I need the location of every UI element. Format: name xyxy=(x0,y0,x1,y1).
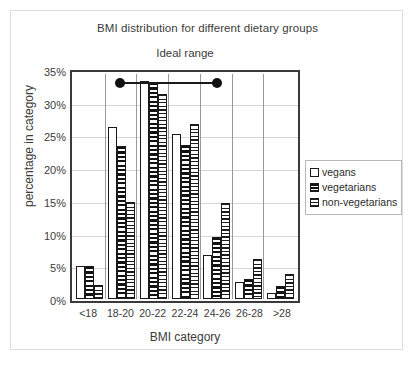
bar xyxy=(140,81,149,300)
x-axis-tick-label: 26-28 xyxy=(233,307,265,319)
y-axis-title: percentage in category xyxy=(22,46,36,246)
bar xyxy=(235,282,244,299)
bar xyxy=(126,202,135,300)
bar-group xyxy=(233,74,265,299)
bar-group xyxy=(201,74,233,299)
x-axis-tick-label: 24-26 xyxy=(201,307,233,319)
bar xyxy=(76,266,85,299)
x-axis-tick-label: <18 xyxy=(72,307,104,319)
legend-item-label: vegetarians xyxy=(322,180,376,195)
chart-title: BMI distribution for different dietary g… xyxy=(0,22,415,34)
chart-legend: vegansvegetariansnon-vegetarians xyxy=(305,160,402,215)
bar xyxy=(267,293,276,299)
legend-swatch-icon xyxy=(310,183,319,192)
x-axis-tick-label: 18-20 xyxy=(104,307,136,319)
bar xyxy=(85,266,94,299)
bar xyxy=(190,124,199,299)
legend-item: non-vegetarians xyxy=(310,195,397,210)
bar-group xyxy=(264,74,296,299)
bar xyxy=(158,94,167,299)
legend-swatch-icon xyxy=(310,198,319,207)
bar xyxy=(149,82,158,299)
ideal-range-annotation-label: Ideal range xyxy=(70,47,300,59)
chart-screenshot: BMI distribution for different dietary g… xyxy=(0,0,415,377)
y-axis-tick-label: 5% xyxy=(4,262,66,274)
bar xyxy=(221,203,230,299)
bar xyxy=(203,255,212,299)
legend-item-label: non-vegetarians xyxy=(322,195,397,210)
x-axis-tick-labels: <1818-2020-2222-2424-2626-28>28 xyxy=(72,307,298,319)
bar-group xyxy=(106,74,138,299)
x-axis-tick-label: 20-22 xyxy=(137,307,169,319)
bar xyxy=(285,274,294,299)
bar xyxy=(94,285,103,299)
plot-area xyxy=(70,70,300,303)
y-axis-tick-label: 0% xyxy=(4,295,66,307)
x-axis-tick-label: 22-24 xyxy=(169,307,201,319)
bar xyxy=(253,259,262,299)
bar xyxy=(172,134,181,299)
ideal-range-line xyxy=(120,82,217,84)
bar-group xyxy=(74,74,106,299)
legend-swatch-icon xyxy=(310,168,319,177)
x-axis-title: BMI category xyxy=(70,330,300,344)
bar xyxy=(276,286,285,299)
bar-group xyxy=(169,74,201,299)
ideal-range-marker xyxy=(120,82,217,83)
bar-groups xyxy=(74,74,296,299)
bar-group xyxy=(137,74,169,299)
legend-item-label: vegans xyxy=(322,165,356,180)
legend-item: vegetarians xyxy=(310,180,397,195)
x-axis-tick-label: >28 xyxy=(266,307,298,319)
bar xyxy=(117,146,126,299)
bar xyxy=(108,127,117,299)
legend-item: vegans xyxy=(310,165,397,180)
bar xyxy=(181,145,190,299)
bar xyxy=(244,279,253,299)
bar xyxy=(212,237,221,299)
